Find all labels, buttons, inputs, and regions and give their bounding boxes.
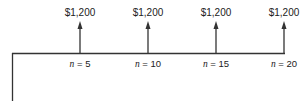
period-label: n = 10 [135,58,161,69]
cash-flow-5: $1,200n = 5 [65,7,96,69]
cash-flow-amount: $1,200 [269,7,300,18]
cash-flow-amount: $1,200 [201,7,232,18]
cash-flow-20: $1,200n = 20 [269,7,300,69]
arrow-up-icon [78,21,83,29]
period-label: n = 15 [203,58,229,69]
period-label: n = 5 [70,58,91,69]
arrow-up-icon [146,21,151,29]
period-label: n = 20 [271,58,297,69]
arrow-up-icon [282,21,287,29]
cash-flow-amount: $1,200 [133,7,164,18]
arrow-up-icon [214,21,219,29]
cash-flow-10: $1,200n = 10 [133,7,164,69]
cash-flow-amount: $1,200 [65,7,96,18]
cash-flow-diagram: $1,200n = 5$1,200n = 10$1,200n = 15$1,20… [0,0,306,101]
cash-flow-15: $1,200n = 15 [201,7,232,69]
